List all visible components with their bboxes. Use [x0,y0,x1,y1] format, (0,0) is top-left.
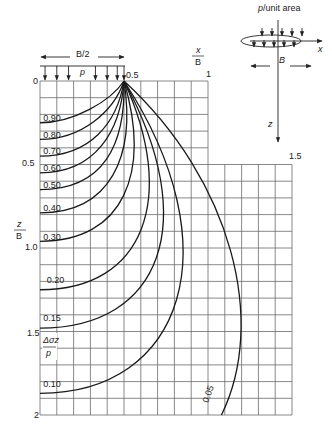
inset-load-label: p/unit area [257,3,301,13]
stress-ratio-label: Δσz p [42,333,59,360]
isobar-label: 0.60 [43,163,61,173]
z-axis: 0.5 1.0 1.5 2 z B [14,158,40,420]
z-tick-1.0: 1.0 [25,242,38,252]
inset-x-label: x [317,44,323,54]
inset-sketch: p/unit area x B z [241,3,323,142]
stress-ratio-top: Δσz [42,335,59,345]
x-axis-label-bottom: B [195,57,201,67]
isobar-label: 0.10 [43,379,61,389]
x-tick-1: 1 [206,69,211,79]
isobar-label: 0.15 [43,313,61,323]
pressure-bulb-diagram: p B/2 0 0.5 1 1.5 x B 0.5 1.0 1.5 2 z B … [0,0,332,428]
inset-z-label: z [267,119,273,129]
isobar-label: 0.05 [200,384,215,404]
x-tick-0.5: 0.5 [126,70,139,80]
x-tick-0: 0 [33,76,38,86]
x-tick-1.5: 1.5 [289,151,302,161]
isobar-label: 0.40 [43,203,61,213]
z-tick-2: 2 [34,410,39,420]
isobar-label: 0.70 [43,146,61,156]
half-width-label: B/2 [76,49,90,59]
z-axis-label-bottom: B [16,231,22,241]
inset-width-label: B [279,55,285,65]
strip-load: p B/2 [40,49,125,80]
stress-ratio-bottom: p [45,348,51,358]
isobar-label: 0.50 [43,180,61,190]
isobar-label: 0.20 [47,275,65,285]
isobar-label: 0.90 [43,113,61,123]
load-label: p [79,67,85,77]
z-axis-label-top: z [16,219,22,229]
z-tick-0.5: 0.5 [22,158,35,168]
z-tick-1.5: 1.5 [27,328,40,338]
isobar-label: 0.30 [43,232,61,242]
isobar-label: 0.80 [43,130,61,140]
x-axis-label-top: x [195,45,201,55]
